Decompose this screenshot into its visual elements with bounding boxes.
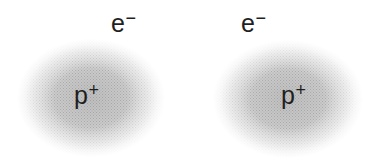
proton-label-right: p+ [281,83,306,108]
two-atoms-diagram: e− p+ e− p+ [0,0,371,165]
electron-charge-sign: − [125,8,136,28]
proton-label-left: p+ [74,83,99,108]
proton-charge-sign: + [88,80,99,100]
electron-charge-sign: − [255,8,266,28]
electron-label-left: e− [111,11,136,36]
electron-label-right: e− [241,11,266,36]
proton-charge-sign: + [295,80,306,100]
proton-symbol: p [74,81,88,109]
electron-symbol: e [111,9,125,37]
electron-symbol: e [241,9,255,37]
proton-symbol: p [281,81,295,109]
